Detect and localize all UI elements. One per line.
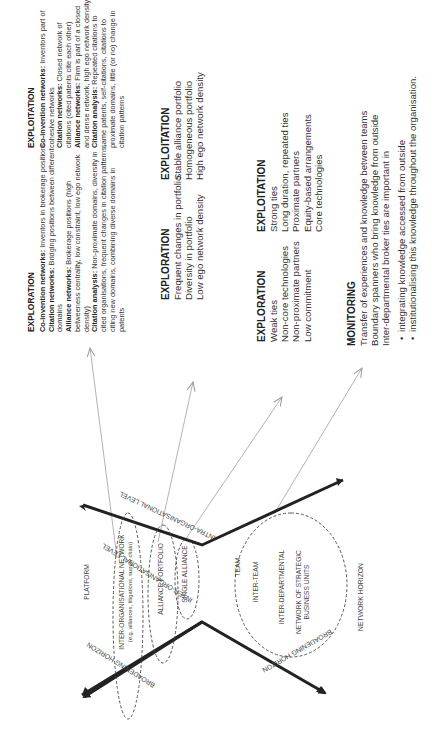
exploration-detailed-block: EXPLORATION Co-invention networks: Inven… <box>27 142 126 332</box>
label-network-sbu-2: BUSINESS UNITS <box>303 564 310 620</box>
exploration-item-citation-analysis: Citation analysis: Non-proximate domains… <box>91 142 126 332</box>
term: Co-invention networks: <box>38 66 47 148</box>
exploration-ties-heading: EXPLORATION <box>256 241 268 342</box>
label-inter-org-network: INTER-ORGANISATIONAL NETWORK <box>118 534 125 650</box>
line: Low ego network density <box>194 176 205 300</box>
term: Citation analysis: <box>90 87 99 148</box>
bullet-item: institutionalising this knowledge throug… <box>407 66 418 338</box>
line: Long duration, repeated ties <box>279 113 290 232</box>
line: Low commitment <box>302 241 313 342</box>
diagram-canvas: INTER-ORGANISATIONAL LEVEL INTRA-ORGANIS… <box>0 0 441 742</box>
exploration-detailed-heading: EXPLORATION <box>27 142 37 332</box>
term: Alliance networks: <box>73 83 82 148</box>
term: Citation analysis: <box>90 271 99 332</box>
line: Non-proximate partners <box>290 241 301 342</box>
line: Equity-based arrangements <box>302 113 313 232</box>
exploration-portfolio-heading: EXPLORATION <box>160 176 172 300</box>
arrow-to-exploration-ties <box>185 397 282 540</box>
monitoring-heading: MONITORING <box>346 66 358 346</box>
exploitation-item-citation-networks: Citation networks: Closed network of cit… <box>56 0 73 148</box>
exploitation-item-alliance-networks: Alliance networks: Firm is part of a clo… <box>74 0 91 148</box>
exploitation-item-citation-analysis: Citation analysis: Repeated citations to… <box>91 0 126 148</box>
line: Boundary spanners who bring knowledge fr… <box>369 66 380 346</box>
line: Frequent changes in portfolio <box>172 176 183 300</box>
label-inter-org-network-sub: (e.g. alliances, litigations, supply cha… <box>127 542 133 643</box>
term: Citation networks: <box>55 84 64 148</box>
exploitation-item-coinvention: Co-invention networks: Inventors part of… <box>39 0 56 148</box>
exploitation-detailed-block: EXPLOITATION Co-invention networks: Inve… <box>27 0 126 148</box>
left-ellipses <box>113 513 199 719</box>
exploitation-ties-block: EXPLOITATION Strong ties Long duration, … <box>256 113 324 232</box>
line: Stable alliance portfolio <box>172 72 183 180</box>
label-network-sbu-1: NETWORK OF STRATEGIC <box>295 550 302 634</box>
exploitation-detailed-heading: EXPLOITATION <box>27 0 37 148</box>
term: Citation networks: <box>47 268 56 332</box>
line: Inter-departmental broker ties are impor… <box>380 66 391 346</box>
thin-arrows <box>90 348 362 558</box>
label-inter-departmental: INTER-DEPARTMENTAL <box>278 549 285 624</box>
exploitation-ties-heading: EXPLOITATION <box>256 113 268 232</box>
exploitation-portfolio-block: EXPLOITATION Stable alliance portfolio H… <box>160 72 206 180</box>
label-network-horizon: NETWORK HORIZON <box>357 563 364 631</box>
monitoring-bullets: integrating knowledge accessed from outs… <box>396 66 419 346</box>
line: Transfer of experiences and knowledge be… <box>358 66 369 346</box>
line: Weak ties <box>268 241 279 342</box>
exploration-item-alliance-networks: Alliance networks: Brokerage positions (… <box>65 142 91 332</box>
line: Proximate partners <box>290 113 301 232</box>
label-single-alliance: SINGLE ALLIANCE <box>181 545 188 603</box>
line: Core technologies <box>313 113 324 232</box>
label-platform: PLATFORM <box>83 564 90 599</box>
line: Non-core technologies <box>279 241 290 342</box>
exploration-ties-block: EXPLORATION Weak ties Non-core technolog… <box>256 241 313 342</box>
exploration-portfolio-block: EXPLORATION Frequent changes in portfoli… <box>160 176 206 300</box>
text: Inventors in brokerage positions <box>38 143 47 250</box>
monitoring-block: MONITORING Transfer of experiences and k… <box>346 66 418 346</box>
label-alliance-portfolio: ALLIANCE PORTFOLIO <box>157 543 164 615</box>
term: Alliance networks: <box>64 267 73 332</box>
line: Strong ties <box>268 113 279 232</box>
line: Diversity in portfolio <box>183 176 194 300</box>
exploitation-portfolio-heading: EXPLOITATION <box>160 72 172 180</box>
broadening-horizon-axis-left <box>84 622 202 697</box>
label-broadening-horizon-right: BROADENING HORIZON <box>261 628 333 674</box>
label-team: TEAM <box>234 558 241 576</box>
term: Co-invention networks: <box>38 250 47 332</box>
exploration-item-citation-networks: Citation networks: Bridging positions be… <box>48 142 65 332</box>
line: Homogeneous portfolio <box>183 72 194 180</box>
arrow-to-exploration-detailed <box>90 348 117 558</box>
line: High ego network density <box>194 72 205 180</box>
bullet-item: integrating knowledge accessed from outs… <box>396 66 407 338</box>
label-inter-team: INTER-TEAM <box>252 562 259 602</box>
